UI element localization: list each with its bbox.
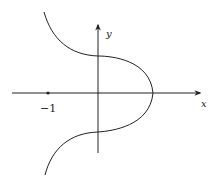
x-axis-label: x xyxy=(201,98,207,109)
figure-canvas: y x −1 xyxy=(0,0,217,187)
point-minus-one xyxy=(46,91,49,94)
tick-label-minus-one: −1 xyxy=(40,102,56,115)
y-axis-label: y xyxy=(105,28,112,39)
